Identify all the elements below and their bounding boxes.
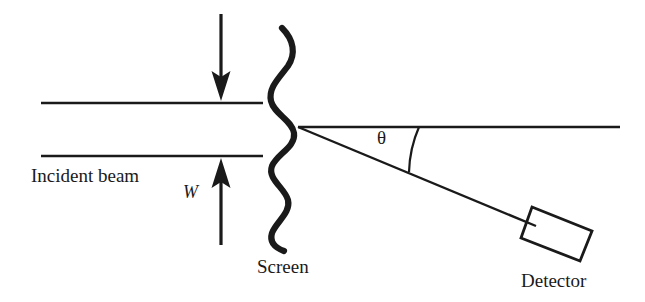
screen-wavy-line	[270, 28, 294, 251]
detector-label: Detector	[521, 271, 586, 290]
slit-width-arrow-up-icon	[212, 158, 231, 245]
scattered-beam-ray-line	[298, 127, 536, 226]
scattering-angle-arc	[409, 127, 419, 172]
scattering-diagram: Incident beam W θ Screen Detector	[0, 0, 645, 302]
scattering-angle-label: θ	[377, 128, 386, 147]
slit-width-label: W	[183, 183, 198, 201]
diagram-canvas	[0, 0, 645, 302]
slit-width-arrow-down-icon	[212, 14, 231, 101]
incident-beam-label: Incident beam	[31, 166, 139, 185]
detector-rectangle	[521, 207, 592, 261]
screen-label: Screen	[257, 257, 309, 276]
